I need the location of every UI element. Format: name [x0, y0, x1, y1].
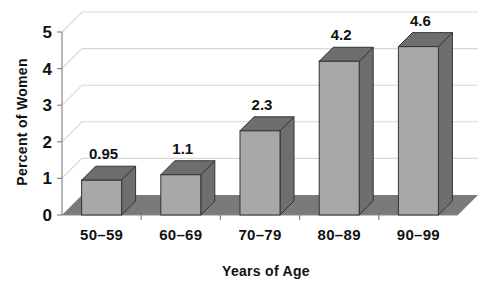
bar-chart-figure: 012345 0.951.12.34.24.6 50–5960–6970–798… [0, 0, 485, 292]
x-category-label: 70–79 [238, 226, 281, 243]
x-category-label: 50–59 [80, 226, 123, 243]
bar-value-label: 2.3 [252, 96, 273, 113]
bar-front-face [240, 131, 280, 215]
x-category-label: 60–69 [159, 226, 202, 243]
x-axis-category-labels: 50–5960–6970–7980–8990–99 [80, 226, 440, 243]
bar-side-face [280, 117, 294, 215]
bar [82, 166, 136, 215]
chart-canvas: 012345 0.951.12.34.24.6 50–5960–6970–798… [0, 0, 485, 292]
y-tick-label: 3 [43, 96, 52, 115]
y-tick-label: 0 [43, 206, 52, 225]
bar-front-face [319, 61, 359, 215]
y-tick-label: 2 [43, 133, 52, 152]
y-axis-ticks: 012345 [43, 23, 62, 225]
bar-side-face [438, 33, 452, 215]
bar-side-face [359, 47, 373, 215]
bar [240, 117, 294, 215]
bar-front-face [161, 175, 201, 215]
y-tick-label: 5 [43, 23, 52, 42]
x-axis-ticks [141, 215, 379, 220]
bar [398, 33, 452, 215]
bar-front-face [398, 47, 438, 215]
bar [161, 161, 215, 215]
bar-value-label: 0.95 [89, 145, 118, 162]
bar [319, 47, 373, 215]
x-axis-title: Years of Age [222, 263, 310, 279]
y-tick-label: 1 [43, 169, 52, 188]
bar-value-label: 1.1 [172, 140, 193, 157]
y-tick-label: 4 [43, 60, 53, 79]
bar-value-label: 4.6 [410, 12, 431, 29]
bars-layer [82, 33, 453, 215]
x-category-label: 80–89 [318, 226, 361, 243]
bar-front-face [82, 180, 122, 215]
x-category-label: 90–99 [397, 226, 440, 243]
bar-value-label: 4.2 [331, 26, 352, 43]
y-axis-title: Percent of Women [14, 58, 30, 185]
